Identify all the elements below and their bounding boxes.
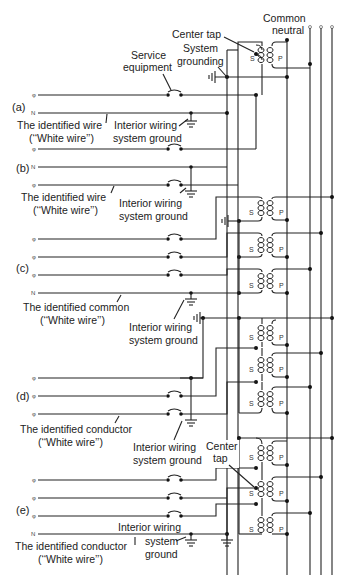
coil-label-s: S	[249, 490, 254, 497]
ground-label: Interior wiring	[133, 441, 196, 453]
wire-symbol-phase: φ	[32, 393, 36, 399]
white-wire-label: (‘‘White wire’’)	[40, 314, 105, 326]
coil-label-s: S	[250, 55, 255, 62]
wire-symbol-phase: φ	[32, 375, 36, 381]
ground-label: Interior wiring	[119, 197, 182, 209]
coil-label-p: P	[278, 55, 283, 62]
coil-label-s: S	[249, 454, 254, 461]
ground-label-2: system ground	[113, 132, 182, 144]
wire-symbol-phase: φ	[32, 254, 36, 260]
coil-label-s: S	[249, 334, 254, 341]
section-c: φ φ φ N (c) The identified common (‘‘Whi…	[16, 234, 239, 346]
service-equipment-label: Service	[131, 49, 166, 61]
ground-label-2: system ground	[129, 334, 198, 346]
wire-symbol-phase: φ	[32, 92, 36, 98]
wire-symbol-phase: φ	[32, 272, 36, 278]
section-tag-d: (d)	[16, 390, 29, 402]
center-tap-label: Center	[206, 440, 238, 452]
wire-symbol-phase: φ	[32, 495, 36, 501]
coil-label-p: P	[279, 334, 284, 341]
center-tap-label-2: tap	[213, 452, 228, 464]
transformers-e: S P S P S P Cent	[180, 436, 334, 546]
coil-label-p: P	[279, 526, 284, 533]
wire-symbol-neutral: N	[31, 164, 35, 170]
ground-label: Interior wiring	[118, 521, 181, 533]
wiring-diagram: S P φ N (a) Common neutral Center tap	[0, 0, 353, 575]
section-d: φ φ φ (d) The identified conductor (‘‘Wh…	[16, 375, 203, 466]
section-tag-a: (a)	[12, 101, 25, 113]
section-tag-c: (c)	[16, 262, 29, 274]
center-tap-label: Center tap	[172, 28, 221, 40]
common-neutral-label-2: neutral	[272, 24, 304, 36]
ground-label-2: system ground	[133, 454, 202, 466]
coil-label-s: S	[249, 246, 254, 253]
common-neutral-label: Common	[263, 12, 306, 24]
labels-a: The identified wire (‘‘White wire’’) Int…	[17, 114, 188, 144]
coil-label-p: P	[279, 366, 284, 373]
coil-label-s: S	[249, 526, 254, 533]
coil-label-s: S	[249, 400, 254, 407]
system-grounding-label: System	[183, 42, 218, 54]
coil-label-p: P	[279, 490, 284, 497]
section-e: φ φ φ N (e) Interior wiring system groun…	[15, 475, 227, 565]
primary-bus	[287, 26, 334, 575]
coil-label-s: S	[249, 209, 254, 216]
coil-label-p: P	[279, 454, 284, 461]
section-tag-b: (b)	[16, 162, 29, 174]
transformers-c: S P S P S P	[180, 195, 334, 295]
ground-label-2: system	[145, 535, 179, 547]
coil-label-p: P	[279, 209, 284, 216]
identified-wire-label: The identified wire	[17, 119, 102, 131]
ground-label: Interior wiring	[129, 321, 192, 333]
ground-label-2: system ground	[119, 210, 188, 222]
white-wire-label: (‘‘White wire’’)	[38, 436, 103, 448]
system-grounding-label-2: grounding	[177, 55, 224, 67]
identified-common-label: The identified common	[23, 301, 129, 313]
coil-label-p: P	[279, 282, 284, 289]
wire-symbol-phase: φ	[32, 513, 36, 519]
white-wire-label: (‘‘White wire’’)	[29, 132, 94, 144]
identified-wire-label: The identified wire	[21, 191, 106, 203]
top-labels: Common neutral Center tap System groundi…	[123, 12, 306, 90]
wire-symbol-phase: φ	[32, 477, 36, 483]
wire-symbol-phase: φ	[32, 411, 36, 417]
ground-label: Interior wiring	[114, 119, 177, 131]
identified-conductor-label: The identified conductor	[20, 423, 133, 435]
coil-label-s: S	[249, 282, 254, 289]
coil-label-p: P	[279, 400, 284, 407]
section-tag-e: (e)	[16, 504, 29, 516]
coil-label-s: S	[249, 366, 254, 373]
wire-symbol-neutral: N	[31, 110, 35, 116]
white-wire-label: (‘‘White wire’’)	[38, 553, 103, 565]
wire-symbol-phase: φ	[32, 182, 36, 188]
ground-label-3: ground	[145, 548, 178, 560]
service-equipment-label-2: equipment	[123, 61, 172, 73]
white-wire-label: (‘‘White wire’’)	[33, 204, 98, 216]
wire-symbol-phase: φ	[32, 236, 36, 242]
transformers-d: S P S P S P	[180, 312, 334, 415]
section-b: φ N φ (b) The identified wire (‘‘White w…	[16, 95, 256, 222]
wire-symbol-phase: φ	[32, 146, 36, 152]
wire-symbol-neutral: N	[31, 531, 35, 537]
identified-conductor-label: The identified conductor	[15, 540, 128, 552]
wire-symbol-neutral: N	[31, 290, 35, 296]
coil-label-p: P	[279, 246, 284, 253]
